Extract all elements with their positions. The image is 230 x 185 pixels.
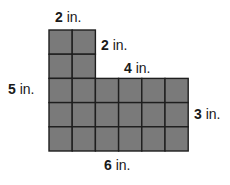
grid-cell: [119, 103, 142, 127]
label-value: 2: [55, 9, 63, 25]
label-unit: in.: [206, 106, 221, 122]
grid-cell: [49, 30, 72, 54]
grid-cell: [72, 103, 95, 127]
grid-cell: [95, 78, 118, 102]
label-right-height: 3 in.: [194, 107, 220, 121]
grid-cell: [72, 127, 95, 151]
grid-cell: [165, 78, 188, 102]
grid-cell: [95, 103, 118, 127]
grid-cell: [165, 127, 188, 151]
label-top-width: 2 in.: [55, 10, 81, 24]
label-unit: in.: [136, 60, 151, 76]
label-unit: in.: [113, 37, 128, 53]
label-unit: in.: [67, 9, 82, 25]
grid-cell: [72, 54, 95, 78]
grid-cell: [49, 54, 72, 78]
grid-cell: [49, 78, 72, 102]
label-top-right-height: 2 in.: [101, 38, 127, 52]
grid-cell: [72, 30, 95, 54]
label-value: 5: [8, 81, 16, 97]
grid-cell: [72, 78, 95, 102]
grid-cell: [119, 78, 142, 102]
label-value: 3: [194, 106, 202, 122]
grid-cell: [142, 127, 165, 151]
grid-cell: [119, 127, 142, 151]
label-value: 6: [104, 157, 112, 173]
grid-cell: [142, 103, 165, 127]
label-value: 2: [101, 37, 109, 53]
label-left-height: 5 in.: [8, 82, 34, 96]
label-step-width: 4 in.: [124, 61, 150, 75]
grid-cell: [142, 78, 165, 102]
label-unit: in.: [116, 157, 131, 173]
grid-cell: [49, 127, 72, 151]
grid-cell: [95, 127, 118, 151]
grid-cell: [49, 103, 72, 127]
label-unit: in.: [20, 81, 35, 97]
label-value: 4: [124, 60, 132, 76]
grid-cell: [165, 103, 188, 127]
label-bottom-width: 6 in.: [104, 158, 130, 172]
